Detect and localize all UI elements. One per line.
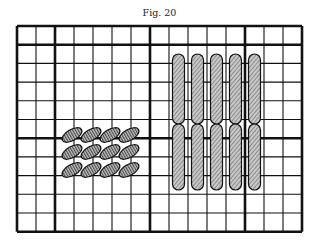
vertical-oval — [230, 54, 242, 124]
vertical-oval — [173, 124, 185, 190]
tilted-ellipse — [60, 160, 85, 181]
vertical-oval — [230, 124, 242, 190]
left-ellipse-group — [60, 125, 142, 181]
vertical-oval — [192, 124, 204, 190]
vertical-oval — [249, 124, 261, 190]
vertical-oval — [211, 54, 223, 124]
vertical-oval — [173, 54, 185, 124]
vertical-oval — [192, 54, 204, 124]
tilted-ellipse — [79, 160, 104, 181]
tilted-ellipse — [79, 142, 104, 163]
vertical-oval — [211, 124, 223, 190]
tilted-ellipse — [98, 125, 123, 146]
grid-diagram — [0, 0, 319, 247]
tilted-ellipse — [98, 142, 123, 163]
vertical-oval — [249, 54, 261, 124]
tilted-ellipse — [98, 160, 123, 181]
tilted-ellipse — [60, 142, 85, 163]
tilted-ellipse — [79, 125, 104, 146]
tilted-ellipse — [60, 125, 85, 146]
tilted-ellipse — [117, 125, 142, 146]
tilted-ellipse — [117, 142, 142, 163]
right-oval-group — [173, 54, 261, 190]
tilted-ellipse — [117, 160, 142, 181]
